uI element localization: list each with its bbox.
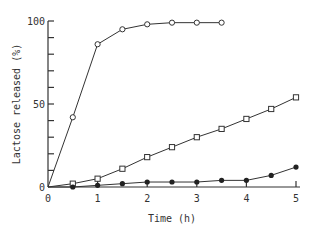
data-point <box>244 178 249 183</box>
data-point <box>145 179 150 184</box>
data-series <box>48 20 299 190</box>
x-tick-label: 3 <box>194 193 200 204</box>
data-point <box>194 135 199 140</box>
x-tick-label: 0 <box>45 193 51 204</box>
data-point <box>120 166 125 171</box>
x-tick-label: 2 <box>144 193 150 204</box>
axes <box>48 21 300 187</box>
data-point <box>293 164 298 169</box>
data-point <box>219 178 224 183</box>
data-point <box>194 179 199 184</box>
data-point <box>244 116 249 121</box>
series-open-square <box>48 95 299 187</box>
x-tick-label: 4 <box>243 193 249 204</box>
x-tick-label: 5 <box>293 193 299 204</box>
data-point <box>70 115 75 120</box>
data-point <box>269 106 274 111</box>
tick-labels: 012345050100 <box>27 16 299 204</box>
data-point <box>95 176 100 181</box>
y-tick-label: 100 <box>27 16 45 27</box>
data-point <box>269 173 274 178</box>
y-axis-label: Lactose released (%) <box>11 44 22 164</box>
y-tick-label: 0 <box>39 182 45 193</box>
data-point <box>70 184 75 189</box>
data-point <box>219 126 224 131</box>
data-point <box>145 155 150 160</box>
data-point <box>194 20 199 25</box>
lactose-release-chart: 012345050100 Time (h) Lactose released (… <box>0 0 316 235</box>
y-tick-label: 50 <box>33 99 45 110</box>
data-point <box>293 95 298 100</box>
data-point <box>169 145 174 150</box>
data-point <box>145 22 150 27</box>
data-point <box>169 179 174 184</box>
data-point <box>120 181 125 186</box>
data-point <box>95 42 100 47</box>
data-point <box>95 183 100 188</box>
x-tick-label: 1 <box>95 193 101 204</box>
x-axis-label: Time (h) <box>148 213 196 224</box>
data-point <box>219 20 224 25</box>
data-point <box>120 27 125 32</box>
series-filled-circle <box>48 164 299 189</box>
data-point <box>169 20 174 25</box>
